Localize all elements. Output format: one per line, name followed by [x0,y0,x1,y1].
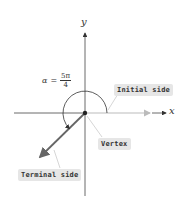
terminal-side-label: Terminal side [18,169,81,181]
equals-sign: = [50,76,57,85]
vertex-label: Vertex [98,138,131,150]
angle-numerator: 5π [60,72,71,81]
angle-fraction: 5π 4 [60,72,71,89]
vertex-point [83,111,87,115]
x-axis-label: x [169,105,175,116]
angle-denominator: 4 [63,81,67,89]
alpha-symbol: α [42,76,47,85]
y-axis-label: y [81,16,87,27]
initial-side-pointer [108,94,118,110]
terminal-side-pointer [54,150,60,168]
vertex-pointer [87,116,102,137]
terminal-side-ray [40,113,85,157]
angle-label: α = 5π 4 [42,72,71,89]
initial-side-label: Initial side [114,84,173,96]
